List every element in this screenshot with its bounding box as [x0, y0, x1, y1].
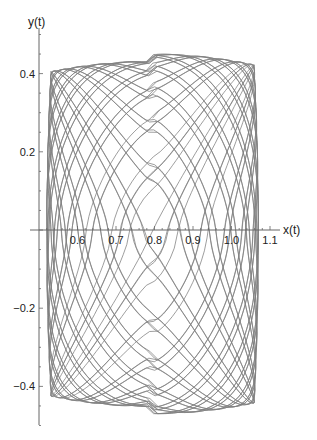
axes: 0.60.70.80.91.01.1 −0.4−0.20.20.4 x(t) y… — [13, 15, 300, 426]
x-axis-label: x(t) — [283, 223, 300, 237]
y-tick-label: −0.2 — [13, 302, 35, 314]
y-tick-label: 0.2 — [20, 146, 35, 158]
x-tick-label: 1.1 — [262, 234, 277, 246]
phase-plot: 0.60.70.80.91.01.1 −0.4−0.20.20.4 x(t) y… — [0, 0, 317, 440]
x-tick-label: 1.0 — [224, 234, 239, 246]
x-tick-label: 0.6 — [70, 234, 85, 246]
y-axis-label: y(t) — [28, 15, 45, 29]
x-tick-label: 0.8 — [147, 234, 162, 246]
y-tick-label: −0.4 — [13, 380, 35, 392]
x-tick-label: 0.9 — [185, 234, 200, 246]
x-axis-ticks: 0.60.70.80.91.01.1 — [47, 226, 278, 246]
x-tick-label: 0.7 — [108, 234, 123, 246]
y-tick-label: 0.4 — [20, 68, 35, 80]
